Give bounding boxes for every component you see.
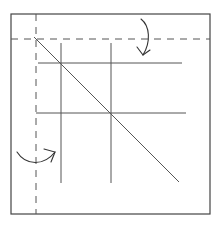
diagonal-crease — [34, 37, 179, 182]
origami-diagram — [0, 0, 221, 239]
fold-down-arrow-icon — [137, 19, 150, 55]
diagram-canvas — [0, 0, 221, 239]
